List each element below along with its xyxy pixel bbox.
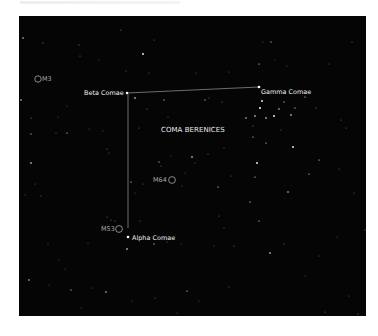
m3-icon xyxy=(35,76,41,82)
constellation-title: COMA BERENICES xyxy=(161,126,225,134)
m53-icon xyxy=(116,226,123,233)
line-beta-gamma xyxy=(127,87,259,93)
beta-comae-label: Beta Comae xyxy=(84,89,124,97)
alpha-comae-label: Alpha Comae xyxy=(132,234,175,242)
star-alpha-comae xyxy=(127,236,130,239)
star-field xyxy=(19,16,366,316)
star-gamma-comae xyxy=(258,86,261,89)
m64-label: M64 xyxy=(153,176,167,184)
m53-label: M53 xyxy=(101,225,115,233)
background-stars xyxy=(20,30,365,315)
star-beta-comae xyxy=(126,92,129,95)
m64-icon xyxy=(169,177,176,184)
star-chart: M3 Beta Comae Gamma Comae COMA BERENICES… xyxy=(19,16,366,316)
cut-off-caption xyxy=(20,0,360,6)
gamma-comae-label: Gamma Comae xyxy=(261,88,311,96)
m3-label: M3 xyxy=(42,75,52,83)
